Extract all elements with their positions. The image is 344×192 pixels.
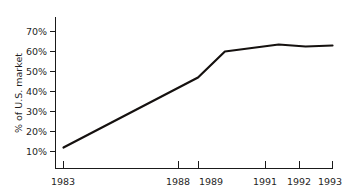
x-tick-label: 1992: [287, 176, 311, 187]
chart-canvas: 70% 60% 50% 40% 30% 20% 10% % of U.S. ma…: [0, 0, 344, 192]
line-chart: 70% 60% 50% 40% 30% 20% 10% % of U.S. ma…: [0, 0, 344, 192]
y-tick-label: 50%: [26, 66, 47, 77]
x-tick-label: 1989: [199, 176, 223, 187]
x-tick-label: 1991: [253, 176, 277, 187]
y-tick-label: 70%: [26, 26, 47, 37]
x-tick-label: 1993: [318, 176, 342, 187]
y-tick-label: 40%: [26, 86, 47, 97]
y-tick-label: 10%: [26, 146, 47, 157]
y-axis-title: % of U.S. market: [13, 53, 24, 133]
chart-background: [0, 0, 344, 192]
x-tick-label: 1983: [51, 176, 75, 187]
y-tick-label: 20%: [26, 126, 47, 137]
y-tick-label: 30%: [26, 106, 47, 117]
x-tick-label: 1988: [166, 176, 190, 187]
y-tick-label: 60%: [26, 46, 47, 57]
